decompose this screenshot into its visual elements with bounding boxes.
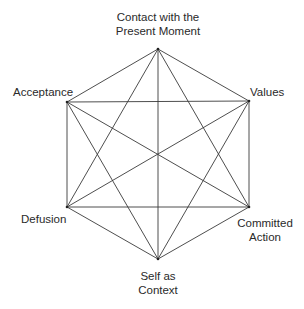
edge-values-self [158,101,249,259]
label-defusion: Defusion [21,212,66,226]
label-self-line2: Context [138,283,178,297]
label-self-as-context: Self as Context [138,269,178,297]
node-committed [248,206,251,209]
node-present [157,48,160,51]
label-committed-line2: Action [237,230,293,244]
node-self [157,258,160,261]
label-acceptance: Acceptance [13,85,73,99]
node-defusion [66,206,69,209]
edge-committed-self [158,207,249,259]
label-values: Values [250,85,284,99]
label-defusion-text: Defusion [21,212,66,226]
label-present-moment: Contact with the Present Moment [116,10,200,38]
label-acceptance-text: Acceptance [13,85,73,99]
label-present-line2: Present Moment [116,24,200,38]
edge-present-acceptance [67,49,158,102]
node-values [248,100,251,103]
edge-self-defusion [67,207,158,259]
edges-group [67,49,249,259]
edge-self-acceptance [67,102,158,259]
edge-present-values [158,49,249,101]
label-self-line1: Self as [138,269,178,283]
hexaflex-diagram [0,0,304,309]
edge-values-acceptance [67,101,249,102]
label-present-line1: Contact with the [116,10,200,24]
label-committed-action: Committed Action [237,216,293,244]
label-committed-line1: Committed [237,216,293,230]
node-acceptance [66,101,69,104]
label-values-text: Values [250,85,284,99]
